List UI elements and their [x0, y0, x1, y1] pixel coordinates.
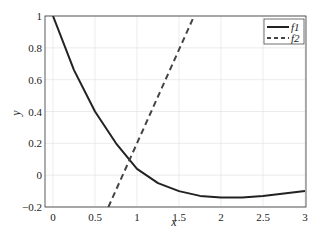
y-tick-label: −0.2 — [22, 201, 42, 213]
legend: f1 f2 — [264, 19, 304, 44]
y-axis-label: y — [9, 110, 23, 117]
line-chart: 00.511.522.53 −0.200.20.40.60.81 x y f1 … — [0, 0, 323, 241]
x-tick-label: 1 — [134, 211, 140, 223]
y-tick-label: 1 — [37, 10, 43, 22]
y-axis-ticks: −0.200.20.40.60.81 — [22, 10, 42, 213]
x-tick-label: 3 — [302, 211, 308, 223]
x-tick-label: 2.5 — [256, 211, 270, 223]
y-tick-label: 0.8 — [28, 42, 42, 54]
legend-label-f2: f2 — [291, 32, 300, 44]
grid-lines — [45, 16, 306, 207]
y-tick-label: 0 — [37, 169, 43, 181]
y-tick-label: 0.6 — [28, 74, 42, 86]
x-tick-label: 2 — [218, 211, 224, 223]
x-tick-label: 0 — [50, 211, 56, 223]
y-tick-label: 0.4 — [28, 106, 42, 118]
x-tick-label: 0.5 — [88, 211, 102, 223]
x-axis-label: x — [170, 215, 177, 229]
y-tick-label: 0.2 — [28, 137, 42, 149]
x-axis-ticks: 00.511.522.53 — [50, 211, 308, 223]
